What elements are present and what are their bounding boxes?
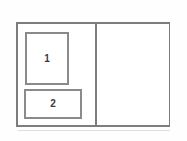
content-box-2[interactable]: 2 <box>24 89 82 119</box>
content-box-1-label: 1 <box>44 54 50 64</box>
baseline-shadow <box>18 130 170 131</box>
outer-frame: 1 2 <box>16 22 170 127</box>
content-box-2-label: 2 <box>50 99 56 109</box>
left-pane: 1 2 <box>18 24 95 125</box>
content-box-1[interactable]: 1 <box>25 32 69 85</box>
wireframe-canvas: 1 2 <box>0 0 187 141</box>
right-pane <box>97 24 169 125</box>
